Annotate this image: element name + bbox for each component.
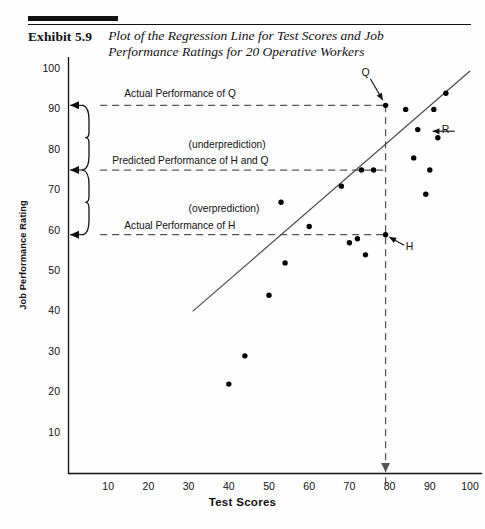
range-brace: [83, 105, 89, 170]
y-tick-label: 80: [30, 143, 60, 155]
data-point: [431, 107, 436, 112]
y-tick-label: 100: [30, 62, 60, 74]
annotation-text: (overprediction): [189, 203, 260, 214]
data-point: [307, 224, 312, 229]
data-point: [242, 353, 247, 358]
regression-line: [193, 71, 470, 311]
data-point-h: [383, 232, 388, 237]
point-label-r: R: [442, 123, 450, 135]
leader-arrowhead: [377, 93, 383, 100]
point-label-q: Q: [361, 66, 369, 78]
point-label-h: H: [406, 240, 414, 252]
data-point: [435, 135, 440, 140]
y-tick-label: 70: [30, 183, 60, 195]
data-point: [282, 260, 287, 265]
annotation-text: Predicted Performance of H and Q: [112, 155, 268, 166]
y-tick-label: 20: [30, 385, 60, 397]
x-tick-label: 70: [334, 480, 364, 492]
y-axis-title: Job Performance Rating: [18, 180, 28, 330]
data-point: [355, 236, 360, 241]
x-tick-label: 50: [254, 480, 284, 492]
data-point: [423, 192, 428, 197]
x-tick-label: 80: [375, 480, 405, 492]
exhibit-figure: Exhibit 5.9 Plot of the Regression Line …: [0, 0, 485, 529]
plot-canvas: [0, 0, 485, 529]
data-point: [415, 127, 420, 132]
plot-axes: [69, 57, 483, 474]
x-tick-label: 100: [455, 480, 485, 492]
y-tick-label: 40: [30, 304, 60, 316]
x-projection-arrow: [381, 463, 390, 472]
y-tick-label: 30: [30, 345, 60, 357]
scatter-plot: [0, 0, 485, 529]
range-brace: [83, 170, 89, 235]
y-tick-label: 60: [30, 224, 60, 236]
data-point: [359, 167, 364, 172]
data-point: [427, 167, 432, 172]
data-point: [371, 167, 376, 172]
y-tick-label: 90: [30, 102, 60, 114]
leader-arrowhead: [433, 128, 440, 134]
y-tick-label: 50: [30, 264, 60, 276]
x-tick-label: 40: [214, 480, 244, 492]
x-tick-label: 10: [93, 480, 123, 492]
x-tick-label: 30: [174, 480, 204, 492]
data-point: [363, 252, 368, 257]
data-point: [443, 91, 448, 96]
y-tick-label: 10: [30, 426, 60, 438]
data-point: [266, 293, 271, 298]
data-point: [278, 200, 283, 205]
data-point: [411, 155, 416, 160]
data-point: [403, 107, 408, 112]
x-tick-label: 90: [415, 480, 445, 492]
annotation-text: Actual Performance of H: [124, 220, 235, 231]
x-tick-label: 20: [133, 480, 163, 492]
x-axis-title: Test Scores: [0, 496, 485, 508]
annotation-text: Actual Performance of Q: [124, 88, 236, 99]
data-point: [347, 240, 352, 245]
annotation-text: (underprediction): [189, 139, 266, 150]
data-point: [339, 183, 344, 188]
x-tick-label: 60: [294, 480, 324, 492]
data-point-q: [383, 103, 388, 108]
data-point: [226, 381, 231, 386]
